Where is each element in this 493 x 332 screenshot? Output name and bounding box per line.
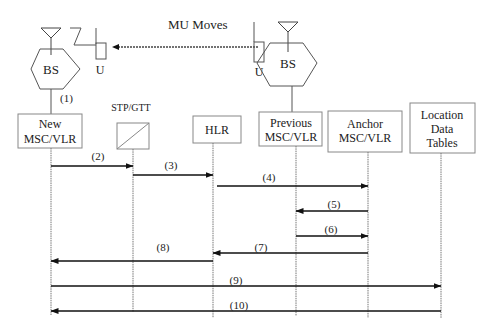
message-label-6: (6)	[325, 223, 338, 236]
entity-label-line: Tables	[426, 136, 457, 150]
entity-label-line: MSC/VLR	[265, 130, 318, 144]
message-label-4: (4)	[263, 171, 276, 184]
entity-label-line: MSC/VLR	[24, 132, 77, 146]
antenna-icon	[41, 28, 61, 38]
previous-base-station: U BS	[254, 22, 317, 112]
entity-label-line: HLR	[205, 123, 229, 137]
entity-label-line: Previous	[270, 116, 312, 130]
message-label-7: (7)	[255, 241, 268, 254]
call-flow-diagram: MU Moves BS (1) U U BS New MSC/VLR STP/G…	[0, 0, 493, 332]
message-label-8: (8)	[157, 241, 170, 254]
mu-move-arrowhead	[112, 44, 119, 50]
bs-label: BS	[43, 62, 59, 77]
entity-anchor-msc-vlr: Anchor MSC/VLR	[328, 111, 402, 152]
entity-label-line: MSC/VLR	[339, 131, 392, 145]
entity-label-line: Data	[431, 122, 454, 136]
link-label: (1)	[60, 92, 73, 105]
entity-label-line: Location	[421, 108, 464, 122]
radio-link-icon	[70, 28, 96, 45]
message-label-10: (10)	[230, 299, 249, 312]
entity-previous-msc-vlr: Previous MSC/VLR	[259, 112, 322, 146]
message-label-2: (2)	[92, 150, 105, 163]
mobile-unit-icon	[96, 43, 106, 59]
unit-label: U	[96, 63, 105, 77]
message-label-3: (3)	[165, 159, 178, 172]
antenna-icon	[278, 22, 298, 32]
entity-label-line: Anchor	[347, 117, 383, 131]
message-label-5: (5)	[328, 198, 341, 211]
new-base-station: BS (1) U	[31, 28, 106, 115]
entity-hlr: HLR	[193, 116, 241, 143]
entity-location-data-tables: Location Data Tables	[410, 103, 475, 153]
entity-new-msc-vlr: New MSC/VLR	[18, 114, 82, 148]
stp-gtt-label: STP/GTT	[111, 102, 150, 113]
bs-label: BS	[280, 56, 296, 71]
entity-label-line: New	[39, 117, 62, 131]
mu-moves-label: MU Moves	[168, 17, 228, 32]
mobile-unit-icon	[254, 42, 264, 62]
message-label-9: (9)	[230, 274, 243, 287]
entity-stp-gtt: STP/GTT	[111, 102, 150, 149]
